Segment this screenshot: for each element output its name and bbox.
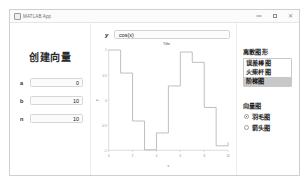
create-vector-panel: 创建向量 a 0 b 10 n 10 — [10, 23, 90, 175]
svg-text:0: 0 — [108, 154, 110, 159]
radio-quiver-label: 箭头图 — [252, 123, 271, 132]
svg-text:6: 6 — [180, 154, 182, 159]
listbox-item-stem[interactable]: 火柴杆图 — [244, 68, 291, 77]
discrete-group-title: 离散图形 — [243, 47, 294, 56]
plot-panel: y cos(x) Title 0246810-1-0.500.51xy — [91, 23, 236, 175]
window-controls: ✕ — [255, 13, 297, 20]
field-row-a: a 0 — [20, 78, 83, 87]
formula-input[interactable]: cos(x) — [114, 30, 230, 39]
field-row-n: n 10 — [20, 114, 83, 123]
window-body: 创建向量 a 0 b 10 n 10 y cos(x) Title — [10, 23, 299, 175]
label-n: n — [20, 116, 30, 122]
svg-text:y: y — [96, 99, 99, 101]
label-a: a — [20, 80, 30, 86]
svg-text:1: 1 — [105, 48, 107, 53]
stairs-plot[interactable]: 0246810-1-0.500.51xy — [95, 46, 232, 169]
radio-feather-label: 羽毛图 — [252, 112, 271, 121]
radio-feather[interactable]: 羽毛图 — [243, 112, 294, 121]
radio-quiver[interactable]: 箭头图 — [243, 123, 294, 132]
window-title: MATLAB App — [23, 14, 51, 19]
title-bar: MATLAB App ✕ — [10, 10, 299, 23]
close-icon[interactable]: ✕ — [287, 13, 294, 20]
svg-text:4: 4 — [156, 154, 158, 159]
maximize-button[interactable] — [271, 13, 278, 20]
close-glyph: ✕ — [288, 13, 293, 19]
svg-text:8: 8 — [203, 154, 205, 159]
input-b[interactable]: 10 — [30, 96, 83, 105]
radio-quiver-icon — [244, 125, 249, 130]
formula-row: y cos(x) — [105, 30, 230, 39]
svg-text:10: 10 — [226, 154, 229, 159]
vector-plot-group: 向量图 羽毛图 箭头图 — [243, 101, 294, 132]
label-b: b — [20, 98, 30, 104]
input-a[interactable]: 0 — [30, 78, 83, 87]
listbox-item-stairs[interactable]: 阶梯图 — [244, 77, 291, 86]
chart-area: Title 0246810-1-0.500.51xy — [95, 41, 232, 171]
plot-type-panel: 离散图形 误差棒图 火柴杆图 阶梯图 向量图 羽毛图 箭头图 — [237, 23, 299, 175]
page-title: 创建向量 — [10, 49, 90, 64]
vector-group-title: 向量图 — [243, 101, 294, 110]
listbox-item-errorbar[interactable]: 误差棒图 — [244, 59, 291, 68]
minimize-button[interactable] — [255, 13, 262, 20]
input-n[interactable]: 10 — [30, 114, 83, 123]
svg-text:2: 2 — [132, 154, 134, 159]
formula-label: y — [105, 32, 114, 38]
app-window: MATLAB App ✕ 创建向量 a 0 b 10 n 10 — [9, 9, 300, 176]
svg-text:-0.5: -0.5 — [102, 123, 107, 128]
radio-feather-icon — [244, 114, 249, 119]
svg-text:0.5: 0.5 — [102, 73, 106, 78]
svg-text:-1: -1 — [104, 148, 107, 153]
svg-text:0: 0 — [105, 98, 107, 103]
app-icon — [14, 13, 20, 19]
field-row-b: b 10 — [20, 96, 83, 105]
discrete-plot-listbox[interactable]: 误差棒图 火柴杆图 阶梯图 — [243, 58, 292, 87]
svg-text:x: x — [168, 164, 170, 169]
